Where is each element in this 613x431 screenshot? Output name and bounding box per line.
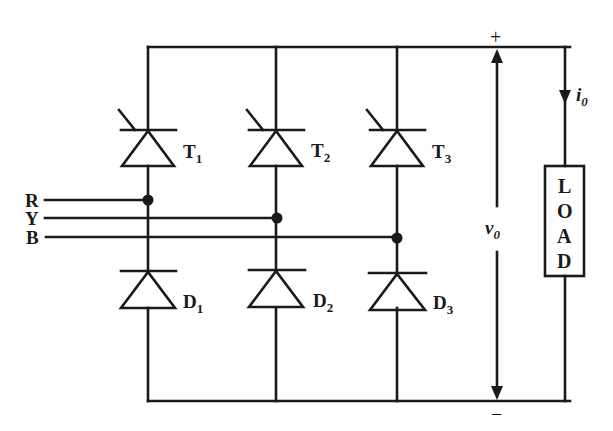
diode-d3 [369,273,426,310]
label-t2: T2 [311,140,330,165]
thyristor-icon [250,131,302,166]
minus-sign: − [491,403,502,425]
arrow-down-icon [491,386,503,400]
label-d3: D3 [433,292,454,317]
diode-icon [249,271,303,307]
gate-lead [119,110,135,130]
junction-dot-r [143,195,154,206]
current-arrow-icon [559,90,571,104]
circuit-diagram: T1 T2 T3 D1 D2 D3 R Y B + − v0 [0,0,613,431]
phase-inputs [45,195,403,244]
label-phase-b: B [26,227,39,248]
diode-d1 [121,271,176,308]
thyristor-icon [371,131,423,166]
column-wires [148,47,397,401]
junction-dot-y [272,213,283,224]
label-t1: T1 [183,141,202,166]
label-i0: i0 [576,84,588,109]
load-letter-a: A [557,225,572,247]
label-phase-y: Y [25,208,39,229]
plus-sign: + [490,26,501,48]
label-d1: D1 [183,291,203,316]
arrow-up-icon [491,49,503,63]
thyristor-icon [122,131,174,166]
diode-d2 [249,270,305,307]
label-v0: v0 [485,217,500,242]
junction-dot-b [392,233,403,244]
load-letter-o: O [557,200,573,222]
load-letter-l: L [558,175,571,197]
load-letter-d: D [557,250,571,272]
diode-icon [121,272,175,308]
label-t3: T3 [432,141,452,166]
diode-icon [370,274,425,310]
label-d2: D2 [313,290,333,315]
